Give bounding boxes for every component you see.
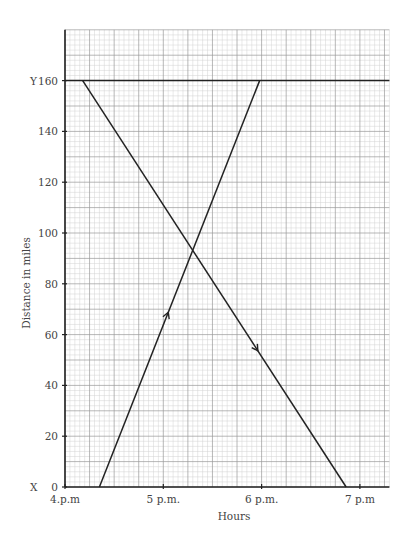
y-tick-label: 40 — [45, 379, 58, 391]
y-tick-label: 160 — [38, 75, 58, 87]
axis-ticks — [62, 81, 360, 489]
y-tick-label: 140 — [38, 125, 58, 137]
x-tick-label: 5 p.m. — [147, 493, 180, 505]
y-axis-title: Distance in miles — [20, 237, 32, 329]
x-tick-label: 7 p.m — [345, 493, 375, 505]
x-axis-title: Hours — [218, 510, 251, 522]
point-label-x: X — [30, 481, 38, 493]
distance-time-graph: 020406080100120140160XY4.p.m5 p.m.6 p.m.… — [0, 0, 408, 543]
y-tick-label: 20 — [45, 430, 58, 442]
y-tick-label: 0 — [51, 481, 58, 493]
y-tick-label: 80 — [45, 278, 58, 290]
x-tick-label: 4.p.m — [50, 493, 80, 505]
y-tick-label: 120 — [38, 176, 58, 188]
y-tick-label: 60 — [45, 329, 58, 341]
axis-labels: 020406080100120140160XY4.p.m5 p.m.6 p.m.… — [29, 75, 375, 505]
x-tick-label: 6 p.m. — [245, 493, 278, 505]
point-label-y: Y — [29, 75, 38, 87]
y-tick-label: 100 — [38, 227, 58, 239]
